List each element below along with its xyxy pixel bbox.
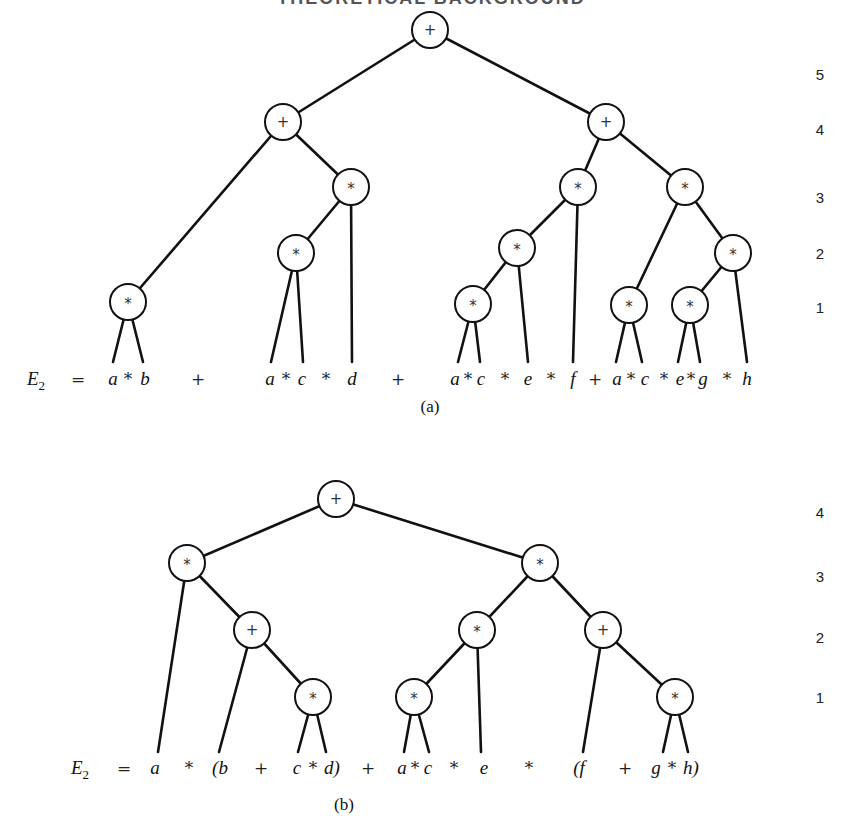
expression-operand: a [450, 368, 460, 389]
tree-node-times: * [396, 679, 432, 715]
level-number: 2 [816, 629, 824, 646]
tree-edge [351, 187, 352, 362]
node-operator: * [183, 556, 191, 574]
expression-operator: * [723, 369, 732, 389]
tree-node-times: * [333, 169, 369, 205]
node-operator: * [574, 180, 582, 198]
expression-operand: f [570, 368, 578, 389]
expression-operator: * [687, 369, 696, 389]
expression-operand: h [742, 368, 752, 389]
expression-operator: * [185, 758, 194, 778]
expression-operand: b [140, 368, 150, 389]
tree-node-times: * [455, 286, 491, 322]
level-number: 4 [816, 121, 824, 138]
expression-operator: * [411, 758, 420, 778]
expression-tree-diagram: +++**********E2=a*b+a*c*d+a*c*e*f+a*c*e*… [0, 0, 863, 840]
tree-node-times: * [560, 169, 596, 205]
node-operator: * [469, 297, 477, 315]
figure-page: THEORETICAL BACKGROUND +++**********E2=a… [0, 0, 863, 840]
expression-operand: e [480, 757, 488, 778]
tree-node-times: * [110, 284, 146, 320]
expression-operand: d) [324, 757, 340, 779]
tree-node-times: * [499, 230, 535, 266]
tree-node-plus: + [234, 612, 270, 648]
expression-operator: * [309, 758, 318, 778]
node-operator: + [330, 490, 343, 508]
expression-operand: a [612, 368, 622, 389]
node-operator: * [681, 180, 689, 198]
expression-operator: + [191, 369, 205, 389]
expression-operator: * [547, 369, 556, 389]
node-operator: + [597, 621, 610, 639]
node-operator: * [309, 690, 317, 708]
node-operator: * [729, 246, 737, 264]
expression-operator: + [361, 758, 375, 778]
node-operator: + [277, 113, 290, 131]
tree-node-times: * [672, 287, 708, 323]
node-operator: * [292, 246, 300, 264]
figure-caption: (b) [334, 795, 354, 814]
expression-operand: a [108, 368, 118, 389]
expression-operator: * [660, 369, 669, 389]
expression-operand: c [641, 368, 650, 389]
node-operator: * [473, 623, 481, 641]
expression-operator: + [391, 369, 405, 389]
tree-node-times: * [611, 287, 647, 323]
tree-node-times: * [278, 235, 314, 271]
node-operator: * [410, 690, 418, 708]
node-operator: * [124, 295, 132, 313]
expression-operator: * [668, 758, 677, 778]
tree-edge [283, 30, 430, 122]
tree-edge [158, 563, 187, 752]
level-number: 3 [816, 568, 824, 585]
level-number: 5 [816, 66, 824, 83]
tree-node-times: * [715, 235, 751, 271]
expression-operand: c [293, 757, 302, 778]
expression-operand: c [424, 757, 433, 778]
expression-operator: * [124, 369, 133, 389]
expression-operator: * [525, 758, 534, 778]
expression-operator: + [618, 758, 632, 778]
expression-operator: * [450, 758, 459, 778]
node-operator: * [625, 298, 633, 316]
tree-node-plus: + [318, 481, 354, 517]
expression-operator: * [464, 369, 473, 389]
tree-node-times: * [169, 545, 205, 581]
tree-node-times: * [522, 545, 558, 581]
expression-operand: (b [212, 757, 228, 779]
expression-operator: + [254, 758, 268, 778]
expression-operand: d [347, 368, 357, 389]
expression-operand: g [651, 757, 661, 778]
level-number: 1 [816, 689, 824, 706]
tree-figure-a: +++**********E2=a*b+a*c*d+a*c*e*f+a*c*e*… [26, 12, 824, 416]
level-number: 4 [816, 504, 824, 521]
node-operator: * [671, 690, 679, 708]
expression-operand: a [150, 757, 160, 778]
expression-operator: * [627, 369, 636, 389]
tree-figure-b: +**+*+***E2=a*(b+c*d)+a*c*e*(f+g*h)(b)43… [70, 481, 824, 814]
tree-edge [336, 499, 540, 563]
expression-label: E2 [70, 757, 89, 782]
tree-edge [629, 187, 685, 305]
expression-operator: + [588, 369, 602, 389]
level-number: 2 [816, 245, 824, 262]
expression-operand: g [698, 368, 708, 389]
expression-operand: c [477, 368, 486, 389]
tree-node-plus: + [588, 104, 624, 140]
tree-edge [430, 30, 606, 122]
tree-edge [187, 499, 336, 563]
expression-operator: * [282, 369, 291, 389]
expression-operand: (f [573, 757, 587, 779]
tree-node-times: * [667, 169, 703, 205]
tree-node-times: * [295, 679, 331, 715]
tree-edge [573, 187, 578, 362]
node-operator: * [536, 556, 544, 574]
tree-node-times: * [459, 612, 495, 648]
expression-operand: a [265, 368, 275, 389]
expression-operator: * [501, 369, 510, 389]
node-operator: + [424, 21, 437, 39]
equals-sign: = [71, 369, 85, 389]
node-operator: + [246, 621, 259, 639]
equals-sign: = [117, 758, 131, 778]
figure-caption: (a) [421, 397, 440, 416]
